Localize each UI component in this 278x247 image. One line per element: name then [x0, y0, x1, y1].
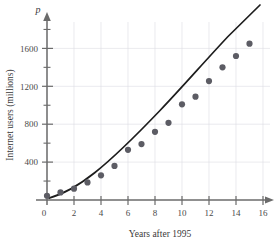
data-point: [57, 189, 63, 195]
x-tick-label: 12: [205, 208, 214, 218]
data-point: [111, 163, 117, 169]
data-point: [125, 147, 131, 153]
data-point: [84, 179, 90, 185]
data-point: [192, 94, 198, 100]
internet-users-scatter-plot: 400 800 1200 1600 0 2 4 6 8 10 12 14 16 …: [0, 0, 278, 247]
x-tick-label: 14: [232, 208, 242, 218]
data-point: [152, 129, 158, 135]
y-tick-label: 400: [25, 157, 39, 167]
data-point: [206, 78, 212, 84]
x-axis-tick-labels: 0 2 4 6 8 10 12 14 16: [42, 208, 268, 218]
data-point: [138, 141, 144, 147]
x-axis-title: Years after 1995: [129, 229, 192, 239]
data-point: [71, 186, 77, 192]
y-axis-variable-symbol: p: [35, 4, 41, 15]
data-point: [233, 53, 239, 59]
data-point: [246, 41, 252, 47]
x-tick-label: 10: [178, 208, 188, 218]
y-tick-label: 1600: [20, 44, 39, 54]
y-tick-label: 1200: [20, 82, 39, 92]
x-tick-label: 16: [259, 208, 269, 218]
data-point: [179, 101, 185, 107]
data-point: [219, 64, 225, 70]
chart-figure: 400 800 1200 1600 0 2 4 6 8 10 12 14 16 …: [0, 0, 278, 247]
data-point: [98, 172, 104, 178]
x-tick-label: 2: [72, 208, 77, 218]
x-tick-label: 6: [126, 208, 131, 218]
y-axis-title: Internet users (millions): [5, 69, 16, 160]
x-tick-label: 0: [42, 208, 47, 218]
data-point: [165, 120, 171, 126]
x-tick-label: 4: [99, 208, 104, 218]
data-point: [44, 193, 50, 199]
x-tick-label: 8: [153, 208, 158, 218]
y-tick-label: 800: [25, 119, 39, 129]
